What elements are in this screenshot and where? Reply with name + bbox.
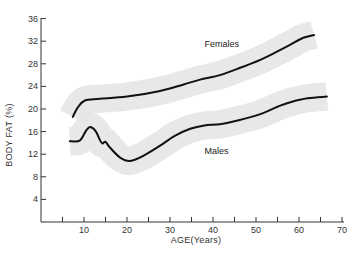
- y-ticks: 4812162024283236: [28, 14, 46, 205]
- y-tick-label: 28: [28, 59, 38, 69]
- y-tick-label: 4: [33, 194, 38, 204]
- x-tick-label: 30: [165, 225, 175, 235]
- y-tick-label: 36: [28, 14, 38, 24]
- x-tick-label: 50: [251, 225, 261, 235]
- y-axis-title: BODY FAT (%): [4, 103, 14, 167]
- body-fat-chart: 4812162024283236 10203040506070 AGE(Year…: [0, 0, 363, 260]
- females-label: Females: [204, 39, 239, 49]
- y-tick-label: 12: [28, 149, 38, 159]
- y-tick-label: 20: [28, 104, 38, 114]
- males-label: Males: [204, 146, 229, 156]
- x-tick-label: 60: [294, 225, 304, 235]
- x-tick-label: 40: [208, 225, 218, 235]
- x-tick-label: 70: [337, 225, 347, 235]
- x-axis-title: AGE(Years): [171, 235, 222, 245]
- x-tick-label: 10: [79, 225, 89, 235]
- x-ticks: 10203040506070: [63, 217, 348, 235]
- y-tick-label: 24: [28, 81, 38, 91]
- y-tick-label: 8: [33, 172, 38, 182]
- x-tick-label: 20: [122, 225, 132, 235]
- y-tick-label: 16: [28, 127, 38, 137]
- y-tick-label: 32: [28, 36, 38, 46]
